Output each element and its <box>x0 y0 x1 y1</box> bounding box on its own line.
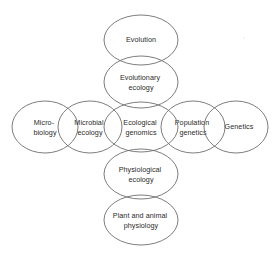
overlapping-ellipses-diagram: Evolution Evolutionary ecology Micro- bi… <box>0 0 279 256</box>
label-ecological-genomics: Ecological genomics <box>123 118 158 137</box>
label-ecological-genomics-line-2: genomics <box>125 127 157 136</box>
label-genetics-line-1: Genetics <box>225 122 254 131</box>
ellipse-group-genetics[interactable]: Genetics <box>204 101 268 153</box>
label-physiological-ecology-line-1: Physiological <box>119 165 162 174</box>
label-microbial-ecology: Microbial ecology <box>74 118 105 137</box>
label-evolutionary-ecology-line-1: Evolutionary <box>120 73 161 82</box>
ellipse-group-plant-and-animal-physiology[interactable]: Plant and animal physiology <box>104 195 178 245</box>
label-genetics: Genetics <box>225 122 254 131</box>
ellipse-group-physiological-ecology[interactable]: Physiological ecology <box>104 149 178 199</box>
label-evolution: Evolution <box>126 35 156 44</box>
label-evolutionary-ecology-line-2: ecology <box>128 82 153 91</box>
label-plant-and-animal-physiology-line-1: Plant and animal <box>113 211 168 220</box>
label-microbiology-line-1: Micro- <box>34 118 55 127</box>
label-population-genetics-line-2: genetics <box>179 127 207 136</box>
label-evolution-line-1: Evolution <box>126 35 156 44</box>
label-microbial-ecology-line-2: ecology <box>77 127 102 136</box>
label-physiological-ecology-line-2: ecology <box>128 174 153 183</box>
ellipse-group-ecological-genomics[interactable]: Ecological genomics <box>104 102 178 152</box>
scan-speck-artifact <box>243 37 245 39</box>
diagram-canvas: Evolution Evolutionary ecology Micro- bi… <box>0 0 279 256</box>
label-microbiology: Micro- biology <box>33 118 56 137</box>
label-microbiology-line-2: biology <box>33 127 56 136</box>
label-plant-and-animal-physiology-line-2: physiology <box>124 220 159 229</box>
label-microbial-ecology-line-1: Microbial <box>74 118 104 127</box>
ellipse-group-evolutionary-ecology[interactable]: Evolutionary ecology <box>104 56 178 108</box>
label-ecological-genomics-line-1: Ecological <box>123 118 157 127</box>
